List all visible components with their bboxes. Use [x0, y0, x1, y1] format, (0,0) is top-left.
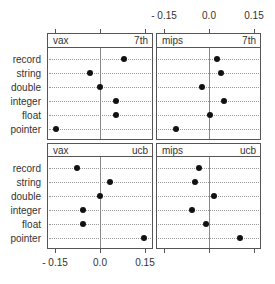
panel-vax-ucb: vaxucb — [47, 143, 153, 249]
data-point-pointer — [53, 126, 59, 132]
row-guide-line — [158, 73, 259, 74]
panel-strip: mipsucb — [157, 144, 260, 157]
data-point-record — [121, 56, 127, 62]
data-point-pointer — [173, 126, 179, 132]
row-guide-line — [158, 210, 259, 211]
data-point-double — [97, 193, 103, 199]
row-guide-line — [49, 224, 151, 225]
reference-line-zero — [100, 157, 101, 248]
data-point-pointer — [141, 235, 147, 241]
data-point-record — [74, 165, 80, 171]
data-point-record — [196, 165, 202, 171]
axis-tick — [100, 249, 101, 253]
strip-compiler-label: ucb — [132, 145, 148, 156]
data-point-float — [80, 221, 86, 227]
data-point-pointer — [237, 235, 243, 241]
axis-tick — [254, 29, 255, 33]
axis-tick — [164, 249, 165, 253]
row-guide-line — [158, 87, 259, 88]
data-point-float — [207, 112, 213, 118]
row-label-pointer: pointer — [10, 123, 41, 134]
panel-strip: vaxucb — [48, 144, 152, 157]
row-guide-line — [158, 168, 259, 169]
panel-mips-ucb: mipsucb — [156, 143, 261, 249]
data-point-double — [97, 84, 103, 90]
axis-tick — [209, 249, 210, 253]
bottom-axis-tick-label: - 0.15 — [42, 257, 68, 268]
axis-tick — [100, 29, 101, 33]
strip-compiler-label: 7th — [134, 35, 148, 46]
row-label-record: record — [13, 53, 41, 64]
axis-tick — [209, 29, 210, 33]
panel-strip: vax7th — [48, 34, 152, 48]
data-point-record — [214, 56, 220, 62]
row-label-float: float — [22, 109, 41, 120]
row-guide-line — [158, 196, 259, 197]
row-label-string: string — [17, 176, 41, 187]
row-guide-line — [49, 238, 151, 239]
axis-tick — [55, 249, 56, 253]
data-point-double — [211, 193, 217, 199]
reference-line-zero — [100, 48, 101, 139]
row-guide-line — [49, 129, 151, 130]
row-label-integer: integer — [10, 95, 41, 106]
data-point-integer — [221, 98, 227, 104]
row-label-record: record — [13, 162, 41, 173]
row-guide-line — [49, 101, 151, 102]
row-label-integer: integer — [10, 204, 41, 215]
data-point-float — [113, 112, 119, 118]
row-guide-line — [49, 59, 151, 60]
strip-machine-label: mips — [162, 35, 183, 46]
axis-tick — [254, 249, 255, 253]
row-guide-line — [49, 210, 151, 211]
row-guide-line — [158, 101, 259, 102]
bottom-axis-tick-label: 0.15 — [135, 257, 154, 268]
axis-tick — [145, 249, 146, 253]
strip-compiler-label: 7th — [242, 35, 256, 46]
row-label-string: string — [17, 67, 41, 78]
data-point-string — [192, 179, 198, 185]
bottom-axis-tick-label: 0.0 — [93, 257, 107, 268]
top-axis-tick-label: - 0.15 — [151, 10, 177, 21]
row-guide-line — [49, 73, 151, 74]
row-guide-line — [49, 168, 151, 169]
strip-machine-label: mips — [162, 145, 183, 156]
row-label-double: double — [11, 81, 41, 92]
strip-compiler-label: ucb — [240, 145, 256, 156]
row-label-float: float — [22, 218, 41, 229]
axis-tick — [55, 29, 56, 33]
data-point-string — [87, 70, 93, 76]
row-guide-line — [158, 182, 259, 183]
row-label-pointer: pointer — [10, 233, 41, 244]
row-guide-line — [158, 59, 259, 60]
axis-tick — [145, 29, 146, 33]
top-axis-tick-label: 0.15 — [244, 10, 263, 21]
data-point-float — [203, 221, 209, 227]
data-point-string — [218, 70, 224, 76]
data-point-double — [199, 84, 205, 90]
data-point-integer — [113, 98, 119, 104]
strip-machine-label: vax — [53, 35, 69, 46]
data-point-integer — [80, 207, 86, 213]
reference-line-zero — [209, 157, 210, 248]
strip-machine-label: vax — [53, 145, 69, 156]
axis-tick — [164, 29, 165, 33]
top-axis-tick-label: 0.0 — [202, 10, 216, 21]
panel-vax-7th: vax7th — [47, 33, 153, 140]
row-guide-line — [49, 115, 151, 116]
panel-strip: mips7th — [157, 34, 260, 48]
panel-mips-7th: mips7th — [156, 33, 261, 140]
row-label-double: double — [11, 190, 41, 201]
reference-line-zero — [209, 48, 210, 139]
data-point-string — [107, 179, 113, 185]
data-point-integer — [189, 207, 195, 213]
row-guide-line — [49, 182, 151, 183]
row-guide-line — [158, 238, 259, 239]
